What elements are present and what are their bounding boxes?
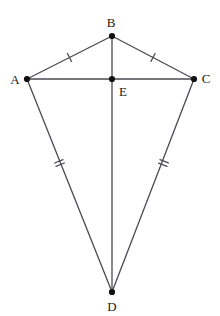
segment-cd bbox=[112, 79, 194, 292]
vertex-label-c: C bbox=[202, 72, 211, 85]
vertex-dot-d bbox=[109, 289, 115, 295]
vertex-label-b: B bbox=[107, 16, 116, 29]
geometry-canvas bbox=[0, 0, 220, 316]
vertex-dot-b bbox=[109, 33, 115, 39]
segments-group bbox=[27, 36, 194, 292]
vertex-label-a: A bbox=[10, 73, 19, 86]
tick-mark-bc-1 bbox=[151, 54, 155, 62]
vertex-label-e: E bbox=[119, 85, 127, 98]
geometry-figure: ABCDE bbox=[0, 0, 220, 316]
vertex-dot-a bbox=[24, 76, 30, 82]
vertex-dot-c bbox=[191, 76, 197, 82]
vertex-dots-group bbox=[24, 33, 197, 295]
vertex-label-d: D bbox=[107, 300, 116, 313]
vertex-dot-e bbox=[109, 76, 115, 82]
segment-ad bbox=[27, 79, 112, 292]
